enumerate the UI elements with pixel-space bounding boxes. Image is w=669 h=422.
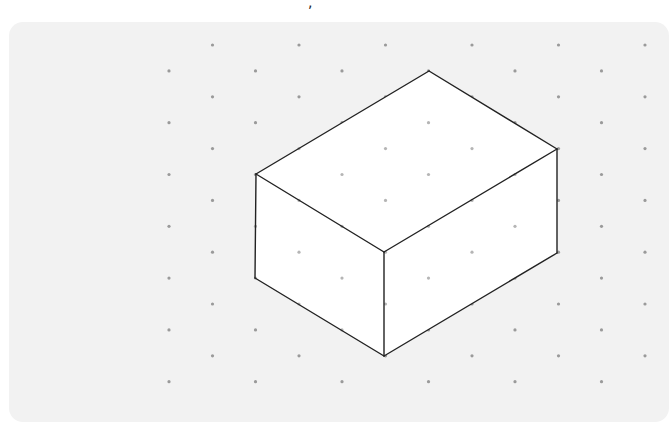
grid-dot xyxy=(254,69,257,72)
grid-dot xyxy=(254,328,257,331)
grid-dot xyxy=(643,354,646,357)
grid-dot xyxy=(557,95,560,98)
isometric-box xyxy=(255,71,557,356)
grid-dot xyxy=(600,225,603,228)
grid-dot xyxy=(167,225,170,228)
grid-dot xyxy=(211,199,214,202)
grid-dot xyxy=(427,277,430,280)
grid-dot xyxy=(254,121,257,124)
grid-dot xyxy=(297,43,300,46)
grid-dot xyxy=(600,173,603,176)
grid-dot xyxy=(211,43,214,46)
grid-dot xyxy=(167,277,170,280)
box-edge xyxy=(255,174,256,278)
grid-dot xyxy=(643,43,646,46)
grid-dot xyxy=(470,43,473,46)
grid-dot xyxy=(211,95,214,98)
grid-dot xyxy=(340,173,343,176)
grid-dot xyxy=(384,147,387,150)
grid-dot xyxy=(340,380,343,383)
grid-dot xyxy=(211,147,214,150)
grid-dot xyxy=(513,225,516,228)
grid-dot xyxy=(513,328,516,331)
grid-dot xyxy=(297,354,300,357)
grid-dot xyxy=(557,354,560,357)
grid-dot xyxy=(167,121,170,124)
grid-dot xyxy=(211,354,214,357)
grid-dot xyxy=(254,380,257,383)
grid-dot xyxy=(340,277,343,280)
grid-dot xyxy=(600,328,603,331)
grid-dot xyxy=(167,69,170,72)
grid-dot xyxy=(643,302,646,305)
grid-dot xyxy=(643,147,646,150)
grid-dot xyxy=(384,199,387,202)
grid-dot xyxy=(211,302,214,305)
grid-dot xyxy=(513,380,516,383)
grid-dot xyxy=(167,328,170,331)
grid-dot xyxy=(167,380,170,383)
grid-dot xyxy=(211,251,214,254)
grid-dot xyxy=(297,95,300,98)
grid-dot xyxy=(600,277,603,280)
grid-dot xyxy=(427,380,430,383)
grid-dot xyxy=(297,251,300,254)
grid-dot xyxy=(470,147,473,150)
grid-dot xyxy=(340,69,343,72)
grid-dot xyxy=(600,121,603,124)
grid-dot xyxy=(600,380,603,383)
grid-dot xyxy=(470,251,473,254)
grid-dot xyxy=(470,354,473,357)
grid-dot xyxy=(643,251,646,254)
grid-dot xyxy=(384,43,387,46)
grid-dot xyxy=(513,69,516,72)
grid-dot xyxy=(427,173,430,176)
grid-dot xyxy=(600,69,603,72)
grid-dot xyxy=(643,199,646,202)
grid-dot xyxy=(167,173,170,176)
grid-dot xyxy=(557,302,560,305)
grid-dot xyxy=(557,43,560,46)
grid-dot xyxy=(427,121,430,124)
grid-dot xyxy=(643,95,646,98)
